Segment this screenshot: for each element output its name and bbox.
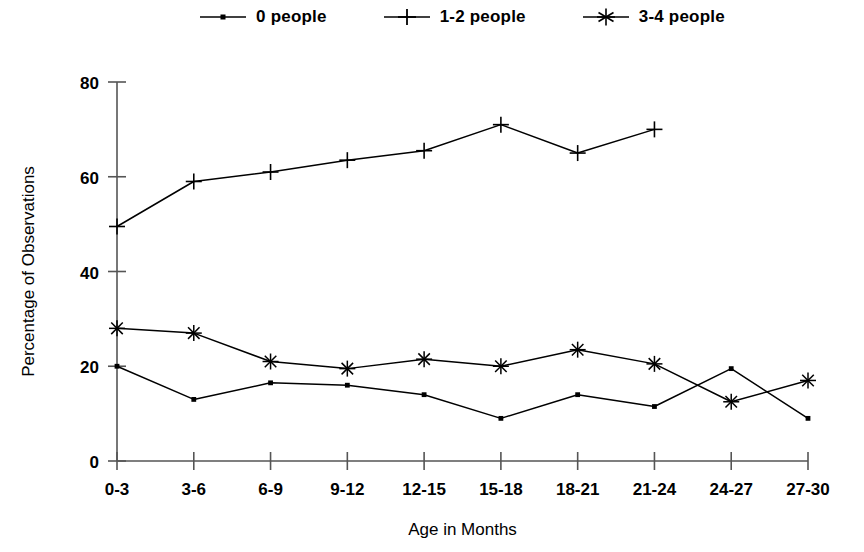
y-axis-title: Percentage of Observations (19, 166, 38, 377)
x-axis-tick-label: 6-9 (258, 480, 283, 499)
plus-marker-icon (383, 8, 431, 26)
y-axis-tick-label: 60 (80, 169, 99, 188)
x-axis-tick-label: 9-12 (330, 480, 364, 499)
y-axis-tick-label: 80 (80, 74, 99, 93)
series-line (117, 366, 808, 418)
line-chart-plot: 0204060800-33-66-99-1212-1515-1818-2121-… (0, 0, 864, 552)
x-axis-tick-label: 27-30 (786, 480, 829, 499)
series-3-4-people (109, 320, 816, 409)
x-axis-tick-label: 15-18 (479, 480, 522, 499)
data-point-marker (345, 383, 350, 388)
legend-item-1-2-people: 1-2 people (383, 7, 526, 27)
chart-axes (108, 82, 808, 470)
legend-item-0-people: 0 people (199, 7, 327, 27)
legend-label-1-2-people: 1-2 people (440, 7, 526, 27)
series-line (117, 125, 654, 227)
x-axis-tick-label: 18-21 (556, 480, 599, 499)
data-point-marker (422, 392, 427, 397)
x-axis-tick-label: 21-24 (633, 480, 677, 499)
y-axis-tick-label: 20 (80, 358, 99, 377)
series-0-people (115, 364, 811, 421)
data-point-marker (806, 416, 811, 421)
legend-label-3-4-people: 3-4 people (639, 7, 725, 27)
data-point-marker (498, 416, 503, 421)
data-point-marker (652, 404, 657, 409)
dot-marker-icon (199, 8, 247, 26)
data-point-marker (115, 364, 120, 369)
series-1-2-people (109, 117, 662, 235)
chart-legend: 0 people 1-2 people 3-4 people (0, 0, 864, 34)
data-point-marker (729, 366, 734, 371)
asterisk-marker-icon (582, 8, 630, 26)
chart-series (109, 117, 816, 421)
x-axis-tick-label: 24-27 (709, 480, 752, 499)
y-axis-tick-label: 40 (80, 264, 99, 283)
legend-item-3-4-people: 3-4 people (582, 7, 725, 27)
series-line (117, 328, 808, 401)
x-axis-tick-label: 3-6 (181, 480, 206, 499)
chart-container: 0 people 1-2 people 3-4 people 020406080… (0, 0, 864, 552)
x-axis-title: Age in Months (408, 520, 517, 539)
y-axis-tick-label: 0 (90, 453, 99, 472)
x-axis-tick-label: 0-3 (105, 480, 130, 499)
data-point-marker (191, 397, 196, 402)
x-axis-tick-label: 12-15 (402, 480, 445, 499)
data-point-marker (268, 380, 273, 385)
legend-label-0-people: 0 people (256, 7, 327, 27)
data-point-marker (575, 392, 580, 397)
